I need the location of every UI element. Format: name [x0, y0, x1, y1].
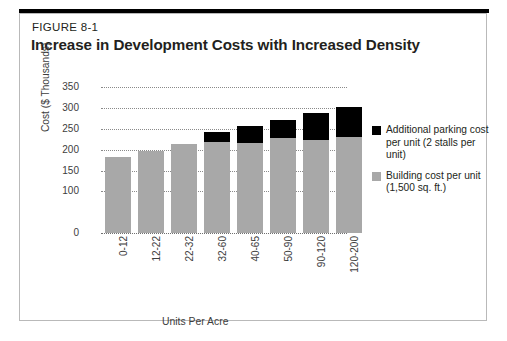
figure-number: FIGURE 8-1: [32, 21, 98, 33]
x-tick-label: 32-60: [217, 223, 228, 249]
chart-plot-area: 3503002502001501000 0-1212-2222-3232-604…: [61, 74, 347, 280]
y-tick-label: 200: [62, 144, 79, 155]
bar-segment-building-cost[interactable]: [138, 151, 164, 233]
bar-column[interactable]: 40-65: [237, 83, 263, 233]
x-tick-label: 120-200: [349, 218, 360, 255]
y-tick-label: 350: [62, 81, 79, 92]
bar-segment-parking-cost[interactable]: [237, 126, 263, 144]
bar-segment-building-cost[interactable]: [270, 138, 296, 233]
y-tick-label: 100: [62, 185, 79, 196]
y-axis-title: Cost ($ Thousands): [40, 43, 51, 132]
bar-column[interactable]: 32-60: [204, 83, 230, 233]
bar-group: 0-1212-2222-3232-6040-6550-9090-120120-2…: [101, 83, 347, 233]
legend-item[interactable]: Additional parking cost per unit (2 stal…: [372, 124, 490, 162]
x-tick-label: 0-12: [118, 226, 129, 246]
chart-legend: Additional parking cost per unit (2 stal…: [372, 124, 490, 203]
bar-column[interactable]: 22-32: [171, 83, 197, 233]
bar-segment-building-cost[interactable]: [171, 144, 197, 233]
bar-column[interactable]: 90-120: [303, 83, 329, 233]
bar-column[interactable]: 12-22: [138, 83, 164, 233]
bar-segment-building-cost[interactable]: [237, 143, 263, 233]
x-tick-label: 22-32: [184, 223, 195, 249]
x-tick-label: 50-90: [283, 223, 294, 249]
y-tick-label: 250: [62, 123, 79, 134]
x-tick-label: 40-65: [250, 223, 261, 249]
bar-column[interactable]: 120-200: [336, 83, 362, 233]
x-axis-title: Units Per Acre: [162, 316, 228, 327]
x-tick-label: 12-22: [151, 223, 162, 249]
y-tick-label: 150: [62, 165, 79, 176]
page-title: Increase in Development Costs with Incre…: [31, 36, 420, 53]
bar-segment-parking-cost[interactable]: [204, 132, 230, 142]
legend-swatch-parking: [372, 126, 381, 135]
bar-column[interactable]: 50-90: [270, 83, 296, 233]
bar-segment-building-cost[interactable]: [105, 157, 131, 233]
y-tick-label: 300: [62, 102, 79, 113]
legend-label: Additional parking cost per unit (2 stal…: [386, 124, 490, 162]
legend-item[interactable]: Building cost per unit (1,500 sq. ft.): [372, 170, 490, 195]
legend-label: Building cost per unit (1,500 sq. ft.): [386, 170, 490, 195]
y-tick-label: 0: [73, 227, 79, 238]
bar-segment-building-cost[interactable]: [303, 140, 329, 233]
bar-segment-building-cost[interactable]: [204, 142, 230, 233]
bar-segment-parking-cost[interactable]: [270, 120, 296, 138]
bar-column[interactable]: 0-12: [105, 83, 131, 233]
legend-swatch-building: [372, 172, 381, 181]
chart-axes: 3503002502001501000 0-1212-2222-3232-604…: [83, 83, 347, 233]
bar-segment-parking-cost[interactable]: [336, 107, 362, 137]
figure-card: FIGURE 8-1 Increase in Development Costs…: [19, 13, 487, 321]
x-tick-label: 90-120: [316, 220, 327, 251]
bar-segment-parking-cost[interactable]: [303, 113, 329, 140]
